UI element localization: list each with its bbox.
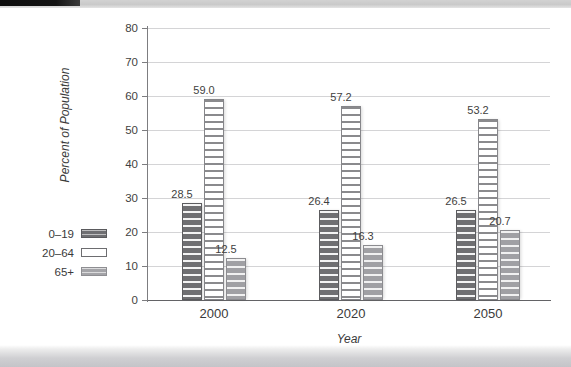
legend-swatch-icon	[81, 229, 107, 238]
y-axis-tick	[142, 266, 148, 267]
bar-2000-20–64[interactable]	[204, 99, 224, 300]
y-axis-tick	[142, 28, 148, 29]
y-axis-tick-label: 30	[104, 192, 138, 204]
y-axis-tick-label: 50	[104, 124, 138, 136]
bar-group-2050: 26.553.220.7	[456, 28, 520, 300]
bar-2000-65+[interactable]	[226, 258, 246, 301]
bar-value-label: 59.0	[184, 84, 224, 96]
bar-2050-20–64[interactable]	[478, 119, 498, 300]
x-axis-tick-label-2000: 2000	[169, 306, 259, 321]
legend-item-0–19[interactable]: 0–19	[12, 224, 107, 243]
y-axis-tick-label: 0	[104, 294, 138, 306]
plot-area: 28.559.012.526.457.216.326.553.220.7	[148, 28, 550, 300]
bar-2050-65+[interactable]	[500, 230, 520, 300]
x-axis-tick-label-2050: 2050	[443, 306, 533, 321]
bar-value-label: 26.5	[436, 195, 476, 207]
y-axis-tick-label: 20	[104, 226, 138, 238]
y-axis-tick-labels: 01020304050607080	[100, 0, 138, 367]
legend-item-label: 65+	[54, 266, 74, 278]
y-axis-title: Percent of Population	[58, 55, 72, 195]
legend-item-label: 0–19	[48, 228, 74, 240]
bar-group-2000: 28.559.012.5	[182, 28, 246, 300]
x-axis-title: Year	[148, 332, 550, 346]
legend-item-65+[interactable]: 65+	[12, 262, 107, 281]
legend-item-20–64[interactable]: 20–64	[12, 243, 107, 262]
y-axis-tick	[142, 232, 148, 233]
bar-value-label: 53.2	[458, 104, 498, 116]
scan-top-edge	[0, 0, 571, 8]
scan-bottom-edge	[0, 345, 571, 367]
bar-value-label: 28.5	[162, 188, 202, 200]
bar-value-label: 26.4	[299, 195, 339, 207]
bar-2000-0–19[interactable]	[182, 203, 202, 300]
bar-2020-0–19[interactable]	[319, 210, 339, 300]
y-axis-tick	[142, 62, 148, 63]
y-axis-tick-label: 40	[104, 158, 138, 170]
bar-value-label: 20.7	[480, 215, 520, 227]
y-axis-tick	[142, 164, 148, 165]
y-axis-tick	[142, 130, 148, 131]
bar-2020-65+[interactable]	[363, 245, 383, 300]
y-axis-tick-label: 60	[104, 90, 138, 102]
bar-value-label: 16.3	[343, 230, 383, 242]
y-axis-tick-label: 80	[104, 22, 138, 34]
legend-swatch-icon	[81, 248, 107, 257]
x-axis-tick-label-2020: 2020	[306, 306, 396, 321]
bar-value-label: 57.2	[321, 91, 361, 103]
bar-2020-20–64[interactable]	[341, 106, 361, 300]
bar-value-label: 12.5	[206, 243, 246, 255]
bar-2050-0–19[interactable]	[456, 210, 476, 300]
legend-swatch-icon	[81, 267, 107, 276]
scan-black-mark	[0, 0, 80, 6]
legend-item-label: 20–64	[42, 247, 74, 259]
x-axis-line	[147, 300, 551, 301]
y-axis-tick-label: 70	[104, 56, 138, 68]
chart-legend: 0–1920–6465+	[12, 224, 107, 281]
y-axis-tick	[142, 96, 148, 97]
y-axis-tick-label: 10	[104, 260, 138, 272]
bar-group-2020: 26.457.216.3	[319, 28, 383, 300]
y-axis-tick	[142, 198, 148, 199]
y-axis-tick	[142, 300, 148, 301]
